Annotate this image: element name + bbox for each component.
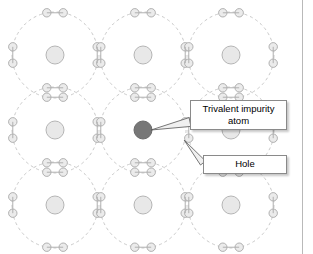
atom-nucleus [134,46,152,64]
atom-nucleus [46,46,64,64]
right-frame-rule [302,0,303,254]
atom-nucleus [46,121,64,139]
atom-nucleus [134,196,152,214]
leader-trivalent-impurity [151,118,191,130]
atom-nucleus [222,196,240,214]
atom-nucleus [46,196,64,214]
atom-nucleus [222,46,240,64]
callout-hole: Hole [203,155,287,174]
atom-lattice-group [9,9,278,252]
impurity-atom-nucleus [134,121,152,139]
diagram-canvas: Trivalent impurity atom Hole [0,0,313,254]
callout-trivalent-impurity-atom: Trivalent impurity atom [190,100,287,130]
